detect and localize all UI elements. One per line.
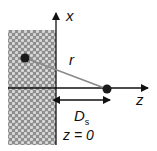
z-axis-label: z: [136, 92, 144, 107]
plane-label: z = 0: [63, 128, 94, 142]
x-axis-label: x: [66, 8, 74, 23]
ds-main: D: [74, 107, 85, 124]
r-label: r: [69, 52, 74, 67]
ds-label: Ds: [74, 108, 89, 127]
particle-dot: [103, 85, 112, 94]
image-charge-dot: [21, 54, 30, 63]
ds-sub: s: [85, 117, 90, 127]
